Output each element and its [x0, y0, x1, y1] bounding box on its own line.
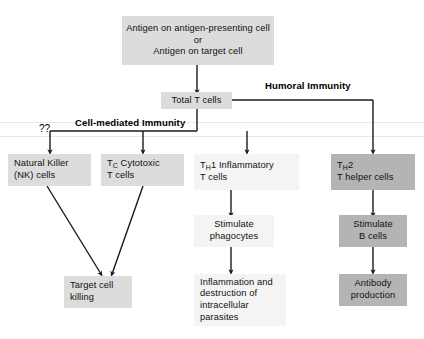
label-unknown-marker: ?? — [39, 123, 50, 134]
b-cells-line-2: B cells — [359, 231, 387, 243]
phagocytes-line-2: phagocytes — [210, 231, 258, 243]
antigen-line-1: Antigen on antigen-presenting cell — [126, 23, 270, 35]
antibody-line-2: production — [351, 290, 395, 302]
tc-line-2: T cells — [107, 170, 134, 182]
antigen-line-3: Antigen on target cell — [153, 46, 242, 58]
wire-nk-to-target-cell-killing — [47, 186, 101, 274]
node-natural-killer-cells: Natural Killer (NK) cells — [8, 154, 91, 186]
wire-tc-to-target-cell-killing — [112, 186, 143, 274]
antigen-line-2: or — [194, 35, 202, 47]
nk-line-1: Natural Killer — [14, 158, 69, 170]
target-killing-line-2: killing — [70, 292, 94, 304]
b-cells-line-1: Stimulate — [353, 219, 393, 231]
phagocytes-line-1: Stimulate — [214, 219, 254, 231]
node-antigen-source: Antigen on antigen-presenting cell or An… — [122, 16, 274, 65]
nk-line-2: (NK) cells — [14, 170, 55, 182]
th2-line-1: TH2 — [337, 160, 353, 172]
inflammation-line-1: Inflammation and — [200, 277, 273, 289]
node-tc-cytotoxic-t-cells: TC Cytotoxic T cells — [101, 154, 184, 186]
inflammation-line-3: intracellular — [200, 300, 249, 312]
label-cell-mediated-immunity: Cell-mediated Immunity — [75, 117, 185, 128]
node-total-t-cells: Total T cells — [161, 92, 232, 109]
node-target-cell-killing: Target cell killing — [64, 276, 132, 308]
th1-line-2: T cells — [200, 172, 227, 184]
label-humoral-immunity: Humoral Immunity — [265, 80, 351, 91]
inflammation-line-4: parasites — [200, 312, 239, 324]
immunity-flowchart-diagram: Antigen on antigen-presenting cell or An… — [0, 0, 424, 339]
target-killing-line-1: Target cell — [70, 280, 113, 292]
th2-line-2: T helper cells — [337, 172, 393, 184]
node-antibody-production: Antibody production — [339, 274, 407, 306]
node-stimulate-phagocytes: Stimulate phagocytes — [194, 215, 274, 247]
inflammation-line-2: destruction of — [200, 288, 257, 300]
total-t-cells-label: Total T cells — [172, 95, 222, 107]
node-th1-inflammatory-t-cells: TH1 Inflammatory T cells — [194, 154, 299, 190]
tc-line-1: TC Cytotoxic — [107, 158, 160, 170]
antibody-line-1: Antibody — [355, 278, 392, 290]
node-th2-helper-t-cells: TH2 T helper cells — [331, 154, 415, 190]
th1-line-1: TH1 Inflammatory — [200, 160, 274, 172]
node-inflammation-destruction: Inflammation and destruction of intracel… — [194, 274, 286, 326]
node-stimulate-b-cells: Stimulate B cells — [339, 215, 407, 247]
